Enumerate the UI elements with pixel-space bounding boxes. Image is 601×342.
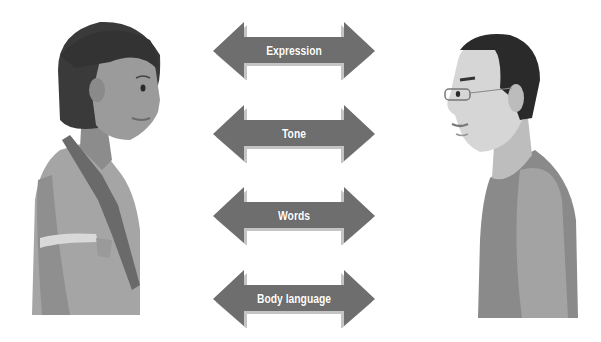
arrow-label: Words xyxy=(224,187,363,245)
woman-figure xyxy=(0,0,200,342)
man-illustration-icon xyxy=(420,0,601,342)
arrow-expression: Expression xyxy=(213,22,375,80)
arrow-words: Words xyxy=(213,187,375,245)
man-figure xyxy=(420,0,601,342)
woman-illustration-icon xyxy=(0,0,200,342)
arrow-body-language: Body language xyxy=(213,270,375,328)
arrow-tone: Tone xyxy=(213,105,375,163)
arrow-label: Body language xyxy=(224,270,363,328)
arrow-label: Expression xyxy=(224,22,363,80)
arrow-label: Tone xyxy=(224,105,363,163)
